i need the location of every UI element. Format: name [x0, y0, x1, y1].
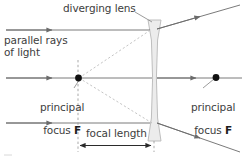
principal-focus-left-label: principal focus F: [27, 90, 84, 148]
leader-lines-group: [74, 12, 214, 88]
diverging-lens-leader-line: [135, 12, 152, 22]
refracted-ray-top-arrow: [157, 17, 200, 30]
parallel-rays-label: parallel rays of light: [4, 35, 68, 58]
virtual-ray-extensions-group: [79, 29, 152, 123]
principal-focus-right-label: principal focus F: [178, 90, 235, 148]
focal-length-label: focal length: [86, 128, 147, 140]
principal-focus-right-line2: focus: [194, 124, 225, 136]
virtual-ray-to-top: [79, 29, 152, 78]
principal-focus-right-dot: [213, 74, 220, 81]
principal-focus-left-dot: [75, 75, 82, 82]
principal-focus-left-line1: principal: [40, 101, 84, 113]
principal-focus-right-line1: principal: [191, 101, 235, 113]
virtual-ray-to-bottom: [79, 78, 152, 123]
principal-focus-left-line2: focus: [43, 124, 74, 136]
diverging-lens-label: diverging lens: [63, 3, 136, 15]
diverging-lens-diagram: diverging lens parallel rays of light pr…: [0, 0, 246, 159]
focus-right-leader-line: [203, 79, 214, 88]
principal-focus-right-symbol: F: [225, 124, 232, 136]
principal-focus-left-symbol: F: [74, 124, 81, 136]
